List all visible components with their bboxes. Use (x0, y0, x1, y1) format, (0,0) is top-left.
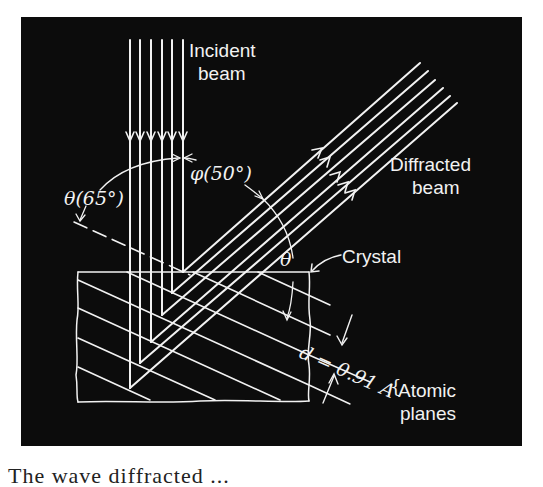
atomic-label-line2: planes (400, 403, 456, 424)
d-arrow-bottom (323, 376, 334, 403)
phi-50-label: φ(50°) (190, 162, 252, 184)
d-spacing-label: d = 0.91 A (296, 341, 398, 403)
diffracted-label-line1: Diffracted (390, 154, 471, 175)
theta-65-label: θ(65°) (64, 187, 124, 209)
diffracted-arrowheads (312, 148, 355, 200)
diffracted-beam-lines (130, 63, 457, 388)
crystal-label: Crystal (342, 246, 401, 267)
diffracted-label-line2: beam (412, 177, 460, 198)
figure-caption: The wave diffracted ... (8, 463, 230, 487)
incident-arrowheads (126, 132, 187, 141)
incident-label-line1: Incident (189, 40, 256, 61)
crystal-leader (312, 255, 341, 271)
incident-label-line2: beam (198, 63, 246, 84)
theta-label: θ (280, 248, 292, 270)
atomic-label-line1: Atomic (398, 380, 456, 401)
